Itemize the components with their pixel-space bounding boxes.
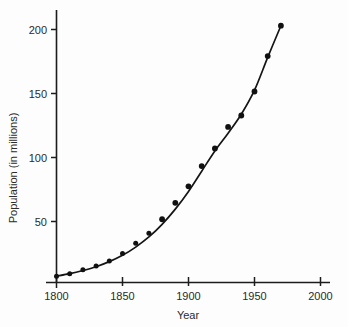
fitted-trend-curve — [57, 26, 281, 276]
data-point — [278, 23, 284, 29]
y-axis-title: Population (in millions) — [7, 113, 19, 224]
data-point — [120, 251, 125, 256]
x-tick-label-1900: 1900 — [176, 290, 200, 302]
y-axis-tick-labels: 200 150 100 50 — [29, 24, 47, 228]
data-point — [107, 259, 112, 264]
x-tick-label-1850: 1850 — [110, 290, 134, 302]
data-point — [54, 274, 59, 279]
data-point — [212, 146, 218, 152]
x-tick-label-1950: 1950 — [242, 290, 266, 302]
data-point — [199, 163, 205, 169]
data-point — [172, 200, 178, 206]
y-tick-label-100: 100 — [29, 152, 47, 164]
population-growth-chart: 200 150 100 50 1800 1850 1900 1950 2000 … — [0, 0, 348, 327]
y-tick-label-200: 200 — [29, 24, 47, 36]
data-point — [225, 124, 231, 130]
x-tick-label-1800: 1800 — [44, 290, 68, 302]
data-point — [186, 183, 192, 189]
x-axis-title: Year — [177, 309, 200, 321]
data-point — [265, 53, 271, 59]
data-point — [133, 241, 138, 246]
y-tick-label-50: 50 — [35, 216, 47, 228]
x-axis-tick-labels: 1800 1850 1900 1950 2000 — [44, 290, 332, 302]
data-point — [238, 113, 244, 119]
chart-canvas: 200 150 100 50 1800 1850 1900 1950 2000 … — [0, 0, 348, 327]
y-tick-label-150: 150 — [29, 88, 47, 100]
x-tick-label-2000: 2000 — [308, 290, 332, 302]
data-point — [94, 264, 99, 269]
data-point — [159, 216, 165, 222]
data-point — [67, 271, 72, 276]
data-point — [252, 89, 258, 95]
data-point — [80, 267, 85, 272]
data-point — [146, 231, 151, 236]
data-point-layer — [54, 23, 284, 279]
